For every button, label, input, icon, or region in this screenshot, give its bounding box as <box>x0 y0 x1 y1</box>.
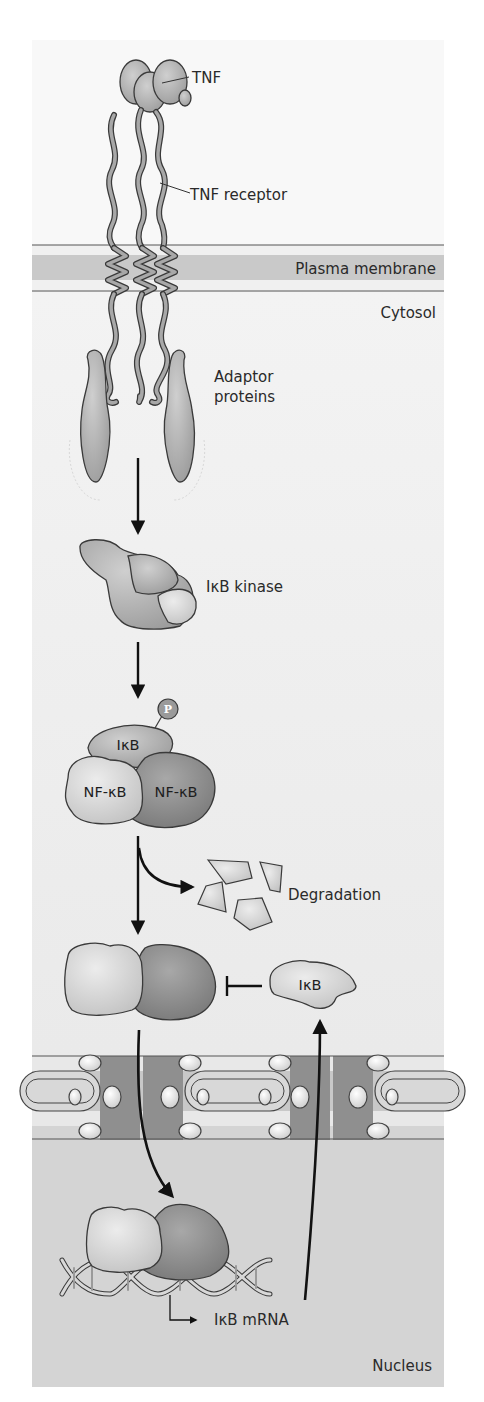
nfkb-right-label: NF-κB <box>155 784 198 800</box>
extracellular-region <box>32 40 444 245</box>
dna-bound-nfkb-dimer <box>87 1205 229 1280</box>
tnf-receptor-label: TNF receptor <box>189 186 288 204</box>
nfkb-left-label: NF-κB <box>84 784 127 800</box>
plasma-membrane-label: Plasma membrane <box>295 260 436 278</box>
adaptor-proteins-label: Adaptor <box>214 368 274 386</box>
adaptor-proteins-label-2: proteins <box>214 388 275 406</box>
ikb-mrna-label: IκB mRNA <box>214 1311 290 1329</box>
ikb-kinase-label: IκB kinase <box>206 578 283 596</box>
degradation-label: Degradation <box>288 886 381 904</box>
free-ikb-label: IκB <box>299 977 322 993</box>
ikb-complex-label: IκB <box>117 737 140 753</box>
svg-text:P: P <box>164 703 172 716</box>
cytosol-label: Cytosol <box>380 304 436 322</box>
nucleus-label: Nucleus <box>372 1357 432 1375</box>
tnf-label: TNF <box>191 69 221 87</box>
free-nfkb-dimer <box>65 943 216 1019</box>
tnf-nfkb-pathway-diagram: TNF <box>0 0 484 1402</box>
